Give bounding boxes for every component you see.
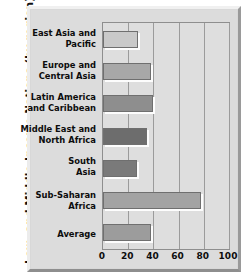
bar-south-asia (103, 160, 137, 177)
x-tick-100: 100 (219, 251, 238, 261)
x-tick-20: 20 (121, 251, 134, 261)
plot-area (102, 22, 230, 250)
bar-chart-figure: Low- and Middle-Income Nations (by regio… (0, 0, 246, 279)
bar-latin-america-and-caribbean (103, 95, 153, 112)
category-label-average: Average (8, 229, 96, 240)
category-label-middle-east-and-north-africa: Middle East andNorth Africa (8, 124, 96, 145)
bar-east-asia-and-pacific (103, 31, 138, 48)
category-label-europe-and-central-asia: Europe andCentral Asia (8, 60, 96, 81)
bar-europe-and-central-asia (103, 63, 151, 80)
x-tick-80: 80 (197, 251, 210, 261)
category-label-column: East Asia andPacific Europe andCentral A… (8, 22, 96, 248)
bar-sub-saharan-africa (103, 192, 201, 209)
bar-middle-east-and-north-africa (103, 128, 147, 145)
category-label-east-asia-and-pacific: East Asia andPacific (8, 28, 96, 49)
gridline-100 (229, 23, 230, 249)
category-label-south-asia: SouthAsia (8, 156, 96, 177)
gridline-80 (204, 23, 205, 249)
category-label-latin-america-and-caribbean: Latin Americaand Caribbean (8, 92, 96, 113)
bar-average (103, 224, 151, 241)
x-tick-40: 40 (146, 251, 159, 261)
gridline-40 (153, 23, 154, 249)
x-tick-0: 0 (99, 251, 105, 261)
gridline-60 (179, 23, 180, 249)
category-label-sub-saharan-africa: Sub-SaharanAfrica (8, 190, 96, 211)
x-axis-tick-labels: 020406080100 (102, 251, 228, 265)
x-tick-60: 60 (171, 251, 184, 261)
